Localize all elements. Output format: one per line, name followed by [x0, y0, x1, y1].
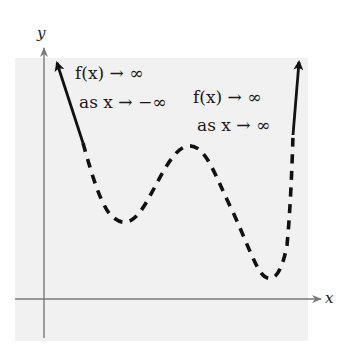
left-annotation-line2: as x → −∞ [79, 92, 166, 112]
right-annotation-line2: as x → ∞ [197, 115, 270, 135]
left-annotation-line1: f(x) → ∞ [75, 63, 143, 83]
end-behavior-diagram: y x f(x) → ∞ as x → −∞ f(x) → ∞ as x → ∞ [0, 0, 350, 349]
x-axis-label: x [325, 289, 334, 307]
y-axis-label: y [36, 24, 46, 42]
right-annotation-line1: f(x) → ∞ [193, 87, 261, 107]
